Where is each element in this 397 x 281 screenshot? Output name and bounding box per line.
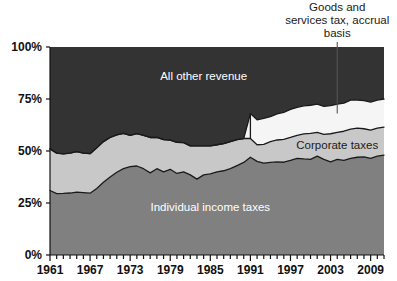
x-tick-label: 1961 — [37, 263, 64, 277]
corporate-taxes-label: Corporate taxes — [296, 139, 378, 151]
x-tick-label: 2009 — [357, 263, 384, 277]
x-tick-label: 2003 — [317, 263, 344, 277]
gst-callout-line-0: Goods and — [309, 1, 365, 13]
y-tick-label: 100% — [11, 40, 42, 54]
gst-callout-line-2: basis — [324, 27, 351, 39]
chart-figure: 0%25%50%75%100% 196119671973197919851991… — [0, 0, 397, 281]
individual-income-taxes-label: Individual income taxes — [151, 201, 271, 213]
y-tick-label: 75% — [18, 92, 42, 106]
x-tick-label: 1991 — [237, 263, 264, 277]
x-tick-label: 1967 — [77, 263, 104, 277]
y-tick-label: 0% — [25, 248, 43, 262]
stacked-area-chart: 0%25%50%75%100% 196119671973197919851991… — [0, 0, 397, 281]
all-other-revenue-label: All other revenue — [160, 70, 247, 82]
x-tick-label: 1973 — [117, 263, 144, 277]
y-tick-label: 25% — [18, 196, 42, 210]
x-tick-label: 1985 — [197, 263, 224, 277]
gst-callout-line-1: services tax, accrual — [285, 14, 389, 26]
x-tick-label: 1979 — [157, 263, 184, 277]
x-tick-label: 1997 — [277, 263, 304, 277]
y-tick-label: 50% — [18, 144, 42, 158]
